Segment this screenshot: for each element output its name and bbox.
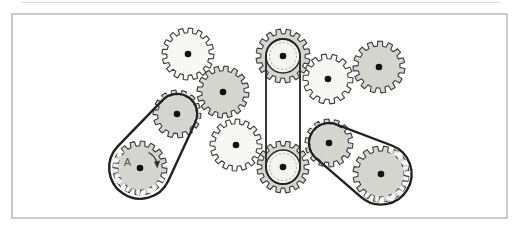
gear-a-axle-dot <box>137 165 144 172</box>
gear-upper-right-white-axle-dot <box>325 76 332 83</box>
gear-belt-bottom-axle-dot <box>280 164 287 171</box>
gear-belt-diagram: A <box>0 0 516 230</box>
gear-belt-right-upper <box>305 119 353 167</box>
gear-belt-right-upper-axle-dot <box>326 140 333 147</box>
figure-canvas: A <box>0 0 516 230</box>
gear-belt-top <box>256 29 310 83</box>
gear-far-right <box>353 41 405 93</box>
gear-bottom-right-axle-dot <box>378 171 385 178</box>
gear-top-left-axle-dot <box>185 51 192 58</box>
gear-mid-white-axle-dot <box>233 142 240 149</box>
gear-belt-left-upper-axle-dot <box>174 111 181 118</box>
figure-frame <box>12 14 507 218</box>
gear-far-right-axle-dot <box>376 64 383 71</box>
gear-belt-left-upper <box>153 90 201 138</box>
gear-mid-white <box>210 119 262 171</box>
gear-upper-middle-axle-dot <box>220 89 227 96</box>
gear-a-label: A <box>124 156 132 168</box>
gear-belt-bottom <box>257 141 309 193</box>
gear-upper-right-white <box>303 54 353 104</box>
gear-belt-top-axle-dot <box>280 53 287 60</box>
